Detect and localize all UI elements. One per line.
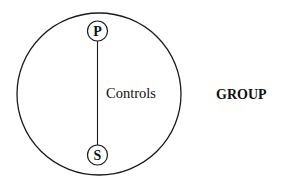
- node-p: P: [88, 21, 108, 41]
- node-s: S: [88, 145, 108, 165]
- diagram-canvas: P S Controls GROUP: [0, 0, 285, 182]
- group-label: GROUP: [216, 87, 267, 102]
- node-s-label: S: [94, 148, 102, 163]
- controls-edge-label: Controls: [106, 85, 156, 101]
- node-p-label: P: [93, 24, 102, 39]
